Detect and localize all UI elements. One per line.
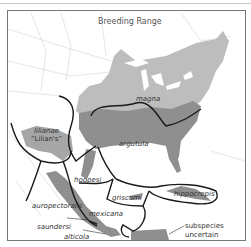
range-uncertain xyxy=(131,229,169,240)
label-auropectoralis: auropectoralis xyxy=(32,202,83,210)
range-light-north xyxy=(76,31,229,119)
range-hoopesi xyxy=(81,149,96,179)
label-uncertain: uncertain xyxy=(185,231,218,239)
top-divider xyxy=(0,3,251,4)
breeding-range-map: Breeding Range magna argutula lilianae “… xyxy=(7,10,246,241)
map-title: Breeding Range xyxy=(98,17,162,26)
label-saundersi: saundersi xyxy=(37,223,71,231)
map-canvas: Breeding Range magna argutula lilianae “… xyxy=(8,11,245,240)
label-hoopesi: hoopesi xyxy=(74,176,101,184)
label-alticola: alticola xyxy=(64,233,89,240)
label-griscomi: griscomi xyxy=(112,194,142,202)
label-hippocrepis: hippocrepis xyxy=(174,190,215,198)
label-argutula: argutula xyxy=(119,140,148,148)
label-subspecies: subspecies xyxy=(185,222,224,230)
label-lilianae: lilianae xyxy=(34,127,59,135)
label-mexicana: mexicana xyxy=(89,210,123,218)
label-magna: magna xyxy=(136,95,160,103)
range-dark-south xyxy=(79,101,201,166)
label-lilians: “Lilian's” xyxy=(31,135,62,143)
